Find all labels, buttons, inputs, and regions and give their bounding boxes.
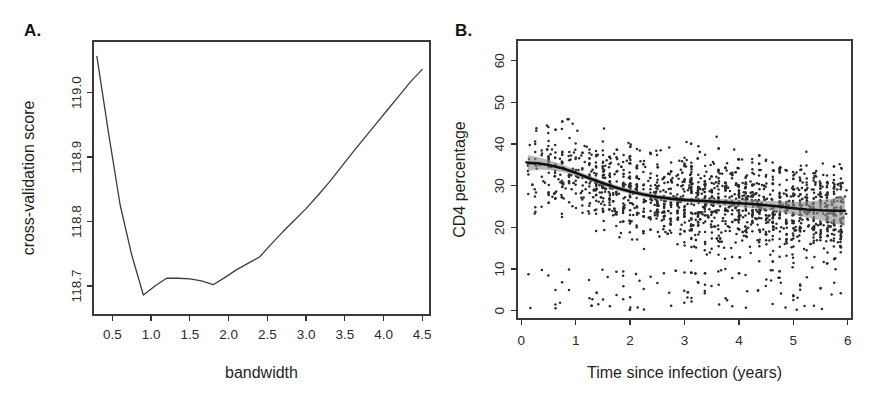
scatter-point — [751, 195, 754, 198]
scatter-point — [643, 201, 646, 204]
scatter-point — [698, 231, 701, 234]
scatter-point — [656, 208, 659, 211]
scatter-point — [650, 202, 653, 205]
scatter-point — [574, 149, 577, 152]
scatter-point — [650, 153, 653, 156]
scatter-point — [822, 162, 825, 165]
scatter-point — [716, 237, 719, 240]
scatter-point — [718, 303, 721, 306]
scatter-point — [655, 217, 658, 220]
scatter-point — [575, 179, 578, 182]
scatter-point — [833, 185, 836, 188]
scatter-point — [720, 241, 723, 244]
scatter-point — [581, 168, 584, 171]
scatter-point — [681, 171, 684, 174]
scatter-point — [731, 213, 734, 216]
scatter-point — [742, 210, 745, 213]
scatter-point — [588, 152, 591, 155]
scatter-point — [745, 208, 748, 211]
scatter-point — [605, 188, 608, 191]
scatter-point — [704, 272, 707, 275]
scatter-point — [794, 229, 797, 232]
scatter-point — [768, 239, 771, 242]
scatter-point — [604, 165, 607, 168]
scatter-point — [706, 253, 709, 256]
scatter-point — [751, 230, 754, 233]
scatter-point — [548, 184, 551, 187]
scatter-point — [661, 211, 664, 214]
scatter-point — [588, 192, 591, 195]
scatter-point — [654, 214, 657, 217]
scatter-point — [656, 163, 659, 166]
scatter-point — [704, 249, 707, 252]
scatter-point — [734, 241, 737, 244]
scatter-point — [690, 192, 693, 195]
scatter-point — [831, 233, 834, 236]
scatter-point — [779, 166, 782, 169]
scatter-point — [815, 196, 818, 199]
scatter-point — [590, 153, 593, 156]
scatter-point — [780, 292, 783, 295]
scatter-point — [727, 186, 730, 189]
scatter-point — [595, 213, 598, 216]
scatter-point — [534, 151, 537, 154]
scatter-point — [772, 222, 775, 225]
scatter-point — [697, 281, 700, 284]
scatter-point — [805, 150, 808, 153]
scatter-point — [555, 190, 558, 193]
scatter-point — [845, 189, 848, 192]
scatter-point — [731, 277, 734, 280]
scatter-point — [697, 191, 700, 194]
scatter-point — [604, 190, 607, 193]
scatter-point — [547, 202, 550, 205]
scatter-point — [609, 305, 612, 308]
scatter-point — [765, 278, 768, 281]
scatter-point — [769, 253, 772, 256]
scatter-point — [594, 209, 597, 212]
scatter-point — [805, 164, 808, 167]
scatter-point — [792, 234, 795, 237]
scatter-point — [683, 244, 686, 247]
scatter-point — [738, 221, 741, 224]
scatter-point — [785, 255, 788, 258]
scatter-point — [772, 260, 775, 263]
scatter-point — [649, 185, 652, 188]
scatter-point — [710, 214, 713, 217]
scatter-point — [629, 159, 632, 162]
scatter-point — [602, 149, 605, 152]
scatter-point — [682, 188, 685, 191]
scatter-point — [738, 215, 741, 218]
x-tick-label: 2.0 — [219, 327, 238, 342]
scatter-point — [770, 269, 773, 272]
scatter-point — [588, 212, 591, 215]
scatter-point — [822, 174, 825, 177]
scatter-point — [690, 246, 693, 249]
scatter-point — [694, 272, 697, 275]
scatter-point — [691, 212, 694, 215]
scatter-point — [680, 185, 683, 188]
scatter-point — [587, 210, 590, 213]
x-tick-label: 2.5 — [258, 327, 277, 342]
scatter-point — [635, 167, 638, 170]
scatter-point — [690, 271, 693, 274]
scatter-point — [635, 273, 638, 276]
scatter-point — [771, 238, 774, 241]
scatter-point — [629, 306, 632, 309]
scatter-point — [670, 212, 673, 215]
scatter-point — [725, 184, 728, 187]
scatter-point — [730, 247, 733, 250]
scatter-point — [547, 192, 550, 195]
scatter-point — [724, 230, 727, 233]
scatter-point — [699, 151, 702, 154]
x-axis-title: bandwidth — [225, 364, 298, 381]
scatter-point — [809, 243, 812, 246]
scatter-point — [775, 227, 778, 230]
scatter-point — [804, 196, 807, 199]
scatter-point — [581, 211, 584, 214]
scatter-point — [739, 256, 742, 259]
scatter-point — [638, 280, 641, 283]
figure-container: A. 0.51.01.52.02.53.03.54.04.5118.7118.8… — [0, 0, 877, 408]
scatter-point — [676, 212, 679, 215]
scatter-point — [826, 262, 829, 265]
scatter-point — [649, 188, 652, 191]
